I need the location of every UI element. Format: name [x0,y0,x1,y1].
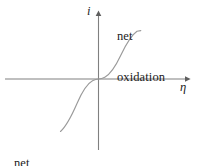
annotation-net-oxidation-line2: oxidation [117,71,165,85]
y-axis-label-current: i [87,4,90,19]
annotation-net-oxidation: net oxidation [117,3,165,111]
current-overpotential-figure: i η net oxidation net reduction [0,0,197,166]
annotation-net-reduction: net reduction [14,130,62,166]
annotation-net-reduction-line1: net [14,157,62,166]
annotation-net-oxidation-line1: net [117,30,165,44]
x-axis-label-overpotential: η [180,80,186,95]
